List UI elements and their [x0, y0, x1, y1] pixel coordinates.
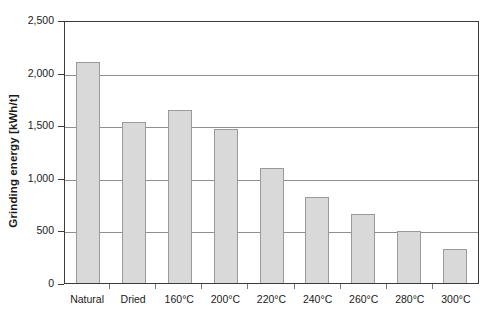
bar	[76, 62, 100, 283]
x-tick-label: 220°C	[248, 292, 294, 310]
x-tick-mark	[156, 284, 202, 290]
y-tick-label: 2,500	[28, 15, 54, 26]
bar-series	[65, 22, 478, 283]
x-axis-labels: NaturalDried160°C200°C220°C240°C260°C280…	[64, 292, 479, 310]
bar	[351, 214, 375, 283]
x-tick-mark	[295, 284, 341, 290]
y-axis-title: Grinding energy [kWh/t]	[0, 0, 26, 322]
bar	[397, 231, 421, 283]
x-tick-label: 200°C	[202, 292, 248, 310]
x-axis-ticks	[64, 284, 479, 290]
x-tick-label: 160°C	[156, 292, 202, 310]
x-tick-mark	[202, 284, 248, 290]
y-tick-label: 1,000	[28, 173, 54, 184]
y-tick-label: 0	[48, 278, 54, 289]
x-tick-mark	[433, 284, 479, 290]
bar	[122, 122, 146, 283]
bar	[443, 249, 467, 283]
x-tick-mark	[387, 284, 433, 290]
bar	[305, 197, 329, 283]
bar-slot	[157, 22, 203, 283]
y-tick-label: 1,500	[28, 120, 54, 131]
x-tick-mark	[110, 284, 156, 290]
x-tick-mark	[248, 284, 294, 290]
x-tick-mark	[64, 284, 110, 290]
x-tick-label: 260°C	[341, 292, 387, 310]
x-tick-label: Dried	[110, 292, 156, 310]
x-tick-mark	[341, 284, 387, 290]
bar-slot	[65, 22, 111, 283]
bar-slot	[249, 22, 295, 283]
y-tick-label: 500	[36, 225, 54, 236]
plot-area	[64, 21, 479, 284]
y-tick-label: 2,000	[28, 68, 54, 79]
x-tick-label: Natural	[64, 292, 110, 310]
x-tick-label: 240°C	[295, 292, 341, 310]
bar-slot	[294, 22, 340, 283]
bar-chart: Grinding energy [kWh/t] 05001,0001,5002,…	[0, 0, 495, 322]
bar	[260, 168, 284, 283]
x-tick-label: 300°C	[433, 292, 479, 310]
x-tick-label: 280°C	[387, 292, 433, 310]
bar	[168, 110, 192, 283]
bar-slot	[432, 22, 478, 283]
bar-slot	[111, 22, 157, 283]
bar-slot	[203, 22, 249, 283]
bar	[214, 129, 238, 283]
bar-slot	[340, 22, 386, 283]
bar-slot	[386, 22, 432, 283]
